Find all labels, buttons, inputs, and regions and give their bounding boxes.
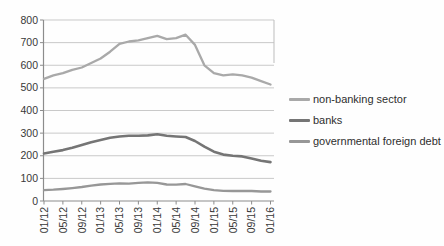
x-axis-label: 05/14	[170, 207, 182, 233]
x-axis-label: 01/16	[264, 207, 276, 233]
y-axis-label: 300	[20, 127, 38, 139]
legend-line-swatch-governmental-foreign-debt	[289, 140, 310, 143]
x-axis-label: 09/15	[245, 207, 257, 233]
legend-item-banks: banks	[289, 113, 441, 127]
legend-item-governmental-foreign-debt: governmental foreign debt	[289, 134, 441, 148]
legend-line-swatch-banks	[289, 119, 310, 122]
x-axis-label: 01/12	[38, 207, 50, 233]
legend-label-non-banking-sector: non-banking sector	[313, 93, 407, 105]
y-axis-label: 100	[20, 172, 38, 184]
chart-legend: non-banking sector banks governmental fo…	[289, 92, 441, 148]
x-axis-label: 05/12	[57, 207, 69, 233]
series-line-governmental-foreign-debt	[44, 182, 271, 191]
legend-line-swatch-non-banking-sector	[289, 98, 310, 101]
y-axis-label: 700	[20, 36, 38, 48]
y-axis-label: 800	[20, 14, 38, 26]
x-axis-label: 09/14	[189, 207, 201, 233]
legend-label-banks: banks	[313, 114, 342, 126]
legend-label-governmental-foreign-debt: governmental foreign debt	[313, 135, 441, 147]
x-axis-label: 01/14	[151, 207, 163, 233]
legend-item-non-banking-sector: non-banking sector	[289, 92, 441, 106]
x-axis-label: 05/13	[113, 207, 125, 233]
x-axis-label: 01/13	[94, 207, 106, 233]
x-axis-label: 09/13	[132, 207, 144, 233]
series-line-banks	[44, 134, 271, 162]
x-axis-label: 01/15	[208, 207, 220, 233]
x-axis-label: 05/15	[227, 207, 239, 233]
y-axis-label: 0	[32, 195, 38, 207]
y-axis-label: 400	[20, 104, 38, 116]
y-axis-label: 500	[20, 81, 38, 93]
chart-figure: 010020030040050060070080001/1205/1209/12…	[0, 0, 444, 246]
y-axis-label: 200	[20, 149, 38, 161]
y-axis-label: 600	[20, 59, 38, 71]
x-axis-label: 09/12	[76, 207, 88, 233]
